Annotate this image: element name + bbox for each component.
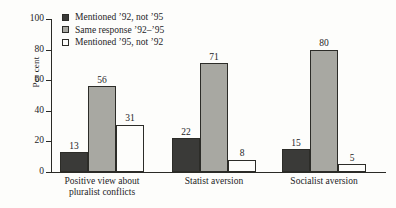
bar-value-label: 56	[87, 75, 117, 85]
y-tick-label: 100	[0, 14, 44, 24]
legend-label: Mentioned ’92, not ’95	[75, 12, 163, 22]
legend-swatch	[62, 14, 69, 21]
y-tick-label: 80	[0, 45, 44, 55]
y-tick-label: 40	[0, 106, 44, 116]
bar	[228, 160, 256, 172]
bar-chart: Per cent 020406080100 1356312271815805 P…	[0, 0, 396, 208]
bar-value-label: 71	[199, 52, 229, 62]
bar-value-label: 15	[281, 138, 311, 148]
category-label-line: Positive view about	[42, 176, 162, 187]
category-label-line: Socialist aversion	[264, 176, 384, 187]
bar-group: 15805	[282, 19, 366, 172]
bar	[172, 138, 200, 172]
bar-value-label: 8	[227, 148, 257, 158]
legend-item: Same response ’92–’95	[62, 24, 202, 37]
bar	[116, 125, 144, 172]
x-axis-line	[51, 172, 386, 173]
legend-label: Same response ’92–’95	[75, 25, 164, 35]
bar-value-label: 31	[115, 113, 145, 123]
bar	[310, 50, 338, 172]
legend-swatch	[62, 26, 69, 33]
category-label-line: pluralist conflicts	[42, 187, 162, 198]
y-tick-label-text: 0	[0, 167, 44, 177]
category-label: Statist aversion	[154, 176, 274, 187]
bar-value-label: 5	[337, 153, 367, 163]
bar	[60, 152, 88, 172]
chart-legend: Mentioned ’92, not ’95Same response ’92–…	[62, 11, 202, 49]
bar	[200, 63, 228, 172]
y-tick-label: 60	[0, 75, 44, 85]
y-tick-label: 20	[0, 136, 44, 146]
bar-value-label: 22	[171, 127, 201, 137]
bar	[282, 149, 310, 172]
bar	[88, 86, 116, 172]
legend-swatch	[62, 39, 69, 46]
bar-value-label: 13	[59, 141, 89, 151]
legend-label: Mentioned ’95, not ’92	[75, 37, 163, 47]
y-tick-label: 0	[0, 167, 44, 177]
legend-item: Mentioned ’95, not ’92	[62, 36, 202, 49]
bar	[338, 164, 366, 172]
category-label-line: Statist aversion	[154, 176, 274, 187]
category-label: Socialist aversion	[264, 176, 384, 187]
y-tick-label-text: 100	[0, 14, 44, 24]
bar-value-label: 80	[309, 38, 339, 48]
y-tick-label-text: 40	[0, 106, 44, 116]
category-label: Positive view aboutpluralist conflicts	[42, 176, 162, 198]
y-tick-label-text: 80	[0, 45, 44, 55]
y-tick-label-text: 20	[0, 136, 44, 146]
legend-item: Mentioned ’92, not ’95	[62, 11, 202, 24]
y-tick-label-text: 60	[0, 75, 44, 85]
